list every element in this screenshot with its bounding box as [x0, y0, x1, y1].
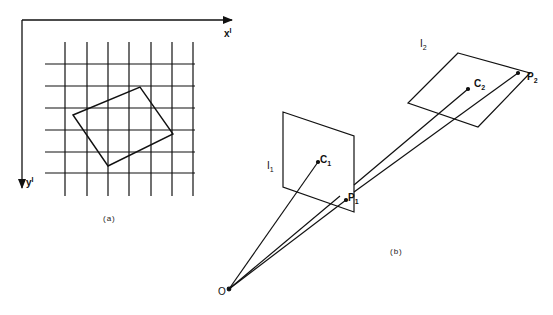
plane-1-label: I1 — [267, 161, 274, 173]
origin-label: O — [218, 287, 226, 297]
diagram-canvas — [0, 0, 553, 315]
c2-label: C2 — [474, 79, 485, 91]
p2-point — [517, 72, 520, 75]
figure-b-caption: (b) — [390, 247, 403, 256]
p2-label: P2 — [527, 72, 538, 84]
origin-point — [227, 287, 231, 291]
x-axis-label: xI — [224, 27, 232, 39]
figure-a-caption: (a) — [103, 214, 116, 223]
plane-2-label: I2 — [420, 39, 427, 51]
y-axis-label: yI — [26, 176, 34, 188]
p1-label: P1 — [348, 193, 359, 205]
ray-to-p2 — [354, 73, 518, 192]
c2-point — [467, 88, 470, 91]
ray-o-p1 — [229, 200, 346, 289]
c1-label: C1 — [320, 155, 331, 167]
figure-a — [22, 20, 232, 196]
pixel-grid — [45, 42, 195, 196]
rotated-square — [73, 87, 173, 166]
